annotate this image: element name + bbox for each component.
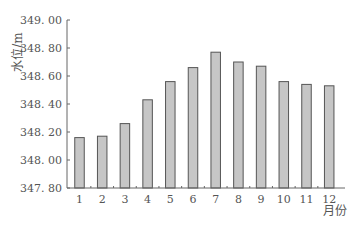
bar-month-3 bbox=[120, 124, 129, 188]
y-tick-label: 348. 40 bbox=[20, 98, 62, 111]
x-tick-label: 11 bbox=[300, 193, 314, 206]
y-axis-label: 水位/m bbox=[10, 32, 25, 72]
x-tick-label: 1 bbox=[76, 193, 83, 206]
y-tick-label: 348. 60 bbox=[20, 70, 62, 83]
y-tick-label: 348. 20 bbox=[20, 126, 62, 139]
x-tick-label: 6 bbox=[190, 193, 197, 206]
x-tick-label: 5 bbox=[167, 193, 174, 206]
bar-month-8 bbox=[234, 62, 244, 188]
bar-month-5 bbox=[166, 82, 176, 188]
bar-month-12 bbox=[324, 86, 334, 188]
x-axis-label: 月份 bbox=[323, 204, 347, 218]
y-axis-ticks: 347. 80348. 00348. 20348. 40348. 60348. … bbox=[20, 14, 70, 195]
x-tick-label: 8 bbox=[235, 193, 242, 206]
y-tick-label: 347. 80 bbox=[20, 182, 62, 195]
bar-month-10 bbox=[279, 82, 289, 188]
x-tick-label: 2 bbox=[99, 193, 106, 206]
bar-month-2 bbox=[97, 136, 107, 188]
y-tick-label: 348. 00 bbox=[20, 154, 62, 167]
bar-month-6 bbox=[188, 68, 198, 188]
x-tick-label: 3 bbox=[121, 193, 128, 206]
bars bbox=[75, 52, 334, 188]
y-tick-label: 348. 80 bbox=[20, 42, 62, 55]
x-tick-label: 10 bbox=[277, 193, 291, 206]
x-tick-label: 7 bbox=[212, 193, 219, 206]
bar-month-11 bbox=[302, 84, 312, 188]
x-tick-label: 9 bbox=[258, 193, 265, 206]
water-level-bar-chart: 347. 80348. 00348. 20348. 40348. 60348. … bbox=[0, 0, 359, 228]
x-axis-ticks: 123456789101112 bbox=[76, 186, 336, 206]
x-tick-label: 4 bbox=[144, 193, 151, 206]
bar-month-9 bbox=[256, 66, 266, 188]
y-tick-label: 349. 00 bbox=[20, 14, 62, 27]
bar-month-4 bbox=[143, 100, 153, 188]
bar-month-1 bbox=[75, 138, 85, 188]
bar-month-7 bbox=[211, 52, 221, 188]
